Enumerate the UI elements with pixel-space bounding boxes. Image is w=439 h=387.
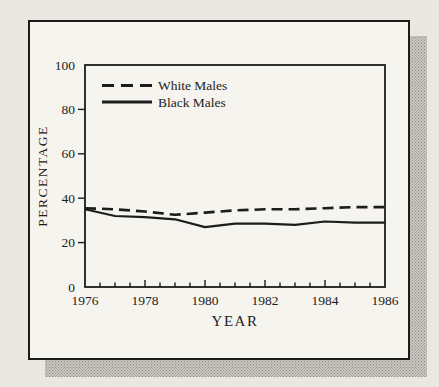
- y-tick-label: 80: [62, 102, 76, 117]
- y-tick-label: 20: [62, 235, 76, 250]
- y-tick-label: 60: [62, 146, 76, 161]
- x-tick-label: 1986: [372, 293, 399, 308]
- x-tick-label: 1978: [132, 293, 159, 308]
- figure-panel: 020406080100197619781980198219841986YEAR…: [28, 20, 410, 360]
- legend-label: Black Males: [158, 95, 226, 110]
- x-tick-label: 1976: [72, 293, 99, 308]
- line-chart: 020406080100197619781980198219841986YEAR…: [30, 22, 408, 358]
- y-tick-label: 40: [62, 191, 76, 206]
- x-axis-title: YEAR: [212, 313, 259, 329]
- x-tick-label: 1980: [192, 293, 219, 308]
- x-tick-label: 1984: [312, 293, 339, 308]
- x-tick-label: 1982: [252, 293, 279, 308]
- legend-label: White Males: [158, 78, 227, 93]
- series-line-dashed: [85, 207, 385, 215]
- series-line-solid: [85, 209, 385, 227]
- y-tick-label: 100: [55, 58, 76, 73]
- y-axis-title: PERCENTAGE: [35, 125, 50, 227]
- plot-frame: [85, 65, 385, 287]
